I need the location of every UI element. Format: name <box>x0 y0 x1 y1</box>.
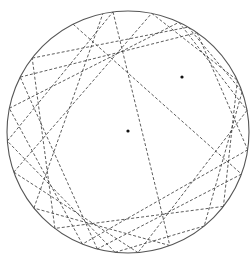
trajectory-chord <box>82 150 247 244</box>
billiard-diagram <box>0 0 252 255</box>
trajectory-chord <box>55 206 224 228</box>
trajectory-chord <box>179 22 247 110</box>
trajectory-chord <box>188 27 242 92</box>
trajectory-chord <box>73 24 241 174</box>
diagram-canvas <box>0 0 252 255</box>
focus-dot-2 <box>126 129 129 132</box>
focus-points <box>126 75 183 132</box>
trajectory-chord <box>32 27 188 58</box>
trajectory-chord <box>20 33 197 77</box>
trajectory-chord <box>34 14 103 209</box>
focus-dot-1 <box>180 75 183 78</box>
trajectory-chord <box>197 33 248 150</box>
trajectory-chord <box>7 141 115 252</box>
trajectory-chord <box>14 13 152 172</box>
trajectory-chord <box>20 77 97 249</box>
